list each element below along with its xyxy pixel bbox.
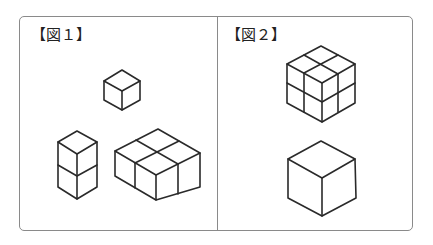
two-cube-column-figure — [58, 131, 97, 199]
single-cube-figure — [104, 70, 140, 110]
four-cube-slab-figure — [115, 129, 200, 200]
large-cube-figure — [288, 141, 356, 216]
isometric-drawings — [0, 0, 433, 245]
eight-cube-block-figure — [287, 46, 355, 122]
